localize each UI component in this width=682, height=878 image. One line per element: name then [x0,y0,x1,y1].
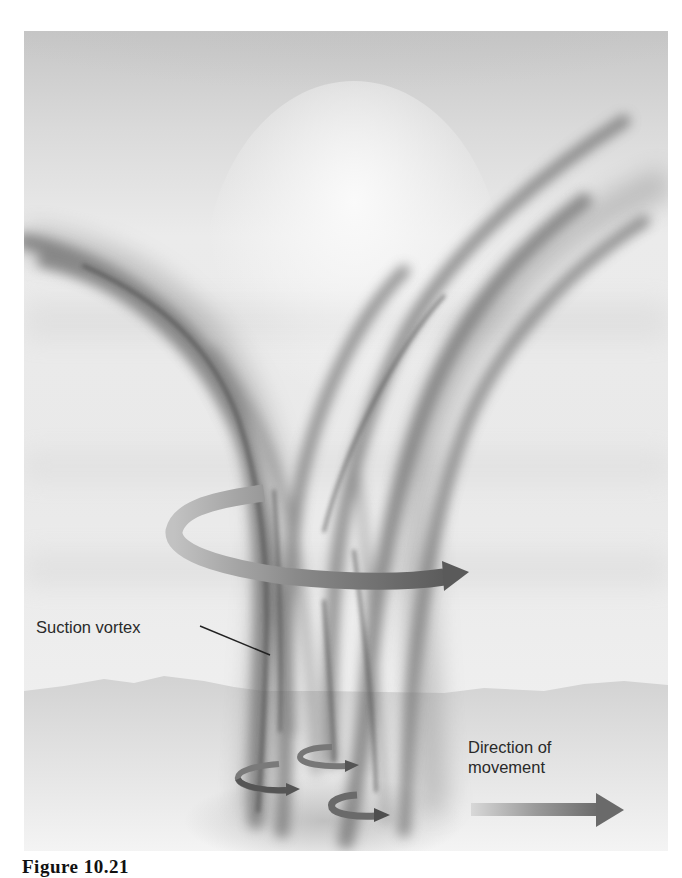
multiple-vortex-tornado-diagram [24,31,668,851]
direction-label-line-1: Direction of [468,737,608,757]
direction-of-movement-label: Direction of movement [468,737,608,777]
figure-caption: Figure 10.21 [22,856,129,878]
tornado-illustration [24,31,668,851]
direction-label-line-2: movement [468,757,608,777]
suction-vortex-label: Suction vortex [36,617,141,637]
